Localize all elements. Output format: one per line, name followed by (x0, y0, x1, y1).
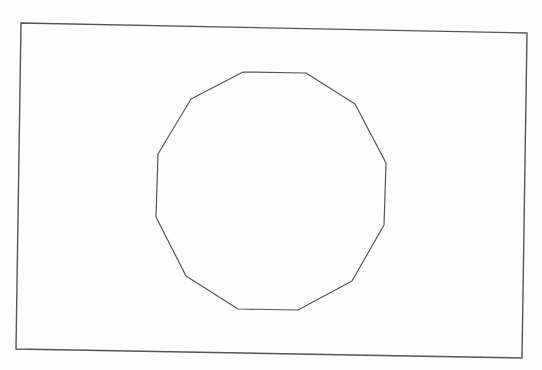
dodecagon-shape (156, 72, 386, 310)
rectangle-frame (16, 23, 527, 358)
diagram-canvas (0, 0, 542, 370)
line-drawing (0, 0, 542, 370)
